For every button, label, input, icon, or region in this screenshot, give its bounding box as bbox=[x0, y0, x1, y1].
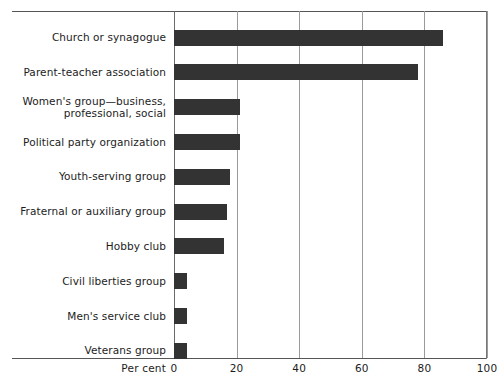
bar-label: Civil liberties group bbox=[0, 264, 166, 299]
bar-chart: Church or synagogueParent-teacher associ… bbox=[0, 0, 504, 386]
x-tick-label-100: 100 bbox=[477, 362, 498, 374]
chart-top-rule bbox=[12, 11, 487, 12]
bar-label: Youth-serving group bbox=[0, 159, 166, 194]
bar-label: Church or synagogue bbox=[0, 20, 166, 55]
bar-row: Youth-serving group bbox=[0, 159, 504, 194]
x-tick-label-40: 40 bbox=[292, 362, 306, 374]
bar-row: Fraternal or auxiliary group bbox=[0, 194, 504, 229]
x-tick-label-60: 60 bbox=[355, 362, 369, 374]
bar-label: Fraternal or auxiliary group bbox=[0, 194, 166, 229]
bar-label: Hobby club bbox=[0, 229, 166, 264]
x-tick-label-80: 80 bbox=[418, 362, 432, 374]
bar bbox=[174, 169, 230, 185]
bar bbox=[174, 273, 187, 289]
bar bbox=[174, 30, 443, 46]
bar-row: Men's service club bbox=[0, 298, 504, 333]
bar bbox=[174, 99, 240, 115]
bar bbox=[174, 64, 418, 80]
bar-row: Women's group—business, professional, so… bbox=[0, 90, 504, 125]
bar bbox=[174, 308, 187, 324]
bar-label: Men's service club bbox=[0, 298, 166, 333]
bar-label: Parent-teacher association bbox=[0, 55, 166, 90]
bar-label: Political party organization bbox=[0, 124, 166, 159]
bar bbox=[174, 134, 240, 150]
bar bbox=[174, 343, 187, 359]
x-tick-label-0: 0 bbox=[171, 362, 178, 374]
bar-row: Political party organization bbox=[0, 124, 504, 159]
bar-label: Women's group—business, professional, so… bbox=[0, 90, 166, 125]
bar bbox=[174, 204, 227, 220]
bar bbox=[174, 238, 224, 254]
bar-row: Hobby club bbox=[0, 229, 504, 264]
bar-row: Parent-teacher association bbox=[0, 55, 504, 90]
bar-row: Civil liberties group bbox=[0, 264, 504, 299]
x-tick-label-20: 20 bbox=[230, 362, 244, 374]
x-axis-caption: Per cent bbox=[121, 362, 166, 374]
bar-row: Church or synagogue bbox=[0, 20, 504, 55]
